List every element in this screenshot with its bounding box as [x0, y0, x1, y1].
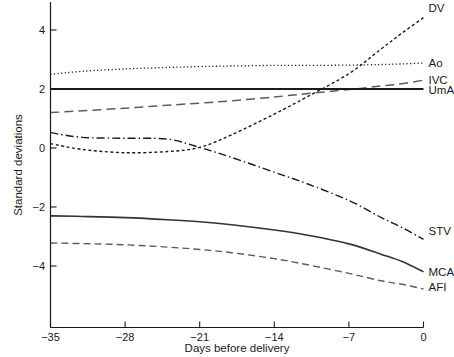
series-label-mca: MCA [429, 266, 454, 278]
y-tick-label: 0 [39, 142, 45, 154]
y-axis-title: Standard deviations [12, 114, 24, 216]
y-tick-label: 2 [39, 83, 45, 95]
y-tick-label: 4 [39, 24, 45, 36]
y-tick-layer: 420−2−4 [32, 24, 56, 272]
x-axis-title: Days before delivery [185, 342, 290, 354]
x-tick-label: 0 [420, 331, 426, 343]
series-label-afi: AFI [429, 281, 447, 293]
chart-figure: −35−28−21−14−70 420−2−4 DVAoIVCUmASTVMCA… [0, 0, 454, 357]
x-tick-layer: −35−28−21−14−70 [41, 322, 426, 344]
series-layer [51, 18, 424, 289]
x-tick-label: −35 [41, 331, 60, 343]
series-label-layer: DVAoIVCUmASTVMCAAFI [429, 2, 454, 293]
series-label-stv: STV [429, 225, 452, 237]
y-tick-label: −4 [32, 260, 45, 272]
series-line-dv [51, 18, 424, 153]
series-line-ao [51, 63, 424, 74]
series-label-dv: DV [429, 2, 445, 14]
x-tick-label: −28 [116, 331, 135, 343]
series-label-uma: UmA [429, 84, 454, 96]
y-tick-label: −2 [32, 201, 45, 213]
series-line-stv [51, 133, 424, 240]
series-label-ao: Ao [429, 57, 443, 69]
axes-layer [51, 2, 424, 328]
x-tick-label: −7 [343, 331, 356, 343]
line-chart-canvas: −35−28−21−14−70 420−2−4 DVAoIVCUmASTVMCA… [0, 0, 454, 357]
series-line-ivc [51, 80, 424, 112]
